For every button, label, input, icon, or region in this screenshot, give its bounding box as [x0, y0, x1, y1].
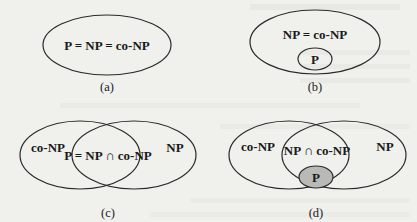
panel-c-intersection-label: P = NP ∩ co-NP	[64, 148, 152, 163]
panel-d-right-label: NP	[376, 139, 393, 154]
scan-bleed-texture	[60, 4, 410, 217]
panel-b-outer-label: NP = co-NP	[283, 27, 348, 42]
diagram-canvas: P = NP = co-NP (a) NP = co-NP P (b) co-N…	[0, 0, 417, 222]
panel-a-label: P = NP = co-NP	[64, 38, 150, 53]
panel-c-right-label: NP	[166, 140, 183, 155]
panel-c-caption: (c)	[101, 206, 115, 220]
panel-d-inner-label: P	[312, 170, 320, 185]
panel-c-left-label: co-NP	[31, 140, 65, 155]
panel-d-left-label: co-NP	[241, 139, 275, 154]
panel-b-inner-label: P	[311, 52, 319, 67]
complexity-classes-figure: P = NP = co-NP (a) NP = co-NP P (b) co-N…	[0, 0, 417, 222]
panel-a: P = NP = co-NP (a)	[43, 15, 171, 94]
panel-d: co-NP NP ∩ co-NP NP P (d)	[229, 121, 406, 220]
panel-c: co-NP P = NP ∩ co-NP NP (c)	[20, 121, 196, 220]
panel-b-caption: (b)	[308, 80, 323, 94]
panel-d-caption: (d)	[309, 206, 324, 220]
panel-a-caption: (a)	[100, 80, 114, 94]
panel-d-intersection-label: NP ∩ co-NP	[284, 143, 350, 158]
